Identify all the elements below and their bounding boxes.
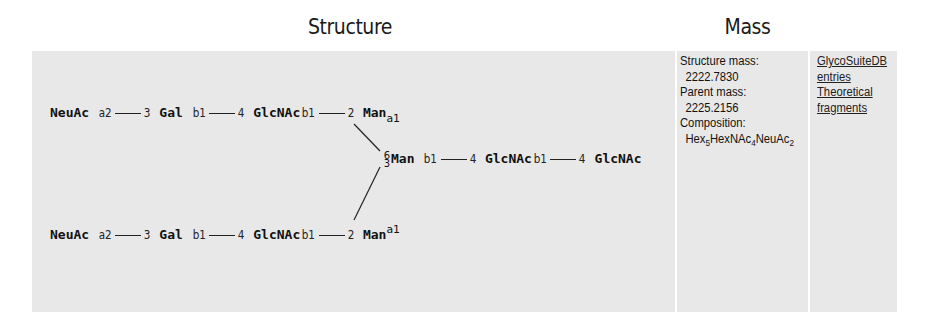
link-text-line2: fragments [817,101,867,115]
linkage-anomer: b1 [534,151,547,166]
composition-hex: Hex [685,132,705,146]
composition-neuac: NeuAc [756,132,790,146]
linkage-anomer: b1 [424,151,437,166]
parent-mass-value: 2225.2156 [680,101,795,117]
links-list: GlycoSuiteDB entries Theoretical fragmen… [817,54,891,116]
theoretical-fragments-link[interactable]: Theoretical fragments [817,85,891,116]
composition-value: Hex5HexNAc4NeuAc2 [680,132,795,152]
glycosuitedb-entries-link[interactable]: GlycoSuiteDB entries [817,54,891,85]
structure-mass-label: Structure mass: [680,54,795,70]
mass-info: Structure mass: 2222.7830 Parent mass: 2… [680,54,795,151]
bond-line [550,159,576,160]
bond-line [441,159,467,160]
link-text-line1: Theoretical [817,85,873,99]
glycan-core: 6 3 Man b14 GlcNAcb14 GlcNAc [383,151,642,168]
linkage-position: 4 [470,151,477,166]
residue-man-core: Man [391,151,414,166]
residue-glcnac-core: GlcNAc [485,151,532,166]
composition-label: Composition: [680,116,795,132]
linkage-position: 4 [579,151,586,166]
link-text-line1: GlycoSuiteDB [817,54,887,68]
residue-glcnac-reducing-end: GlcNAc [595,151,642,166]
composition-hexnac: HexNAc [710,132,751,146]
position-3: 3 [384,158,390,169]
structure-mass-value: 2222.7830 [680,70,795,86]
parent-mass-label: Parent mass: [680,85,795,101]
composition-neuac-count: 2 [789,138,794,148]
branch-positions: 6 3 [383,152,391,168]
link-text-line2: entries [817,70,851,84]
